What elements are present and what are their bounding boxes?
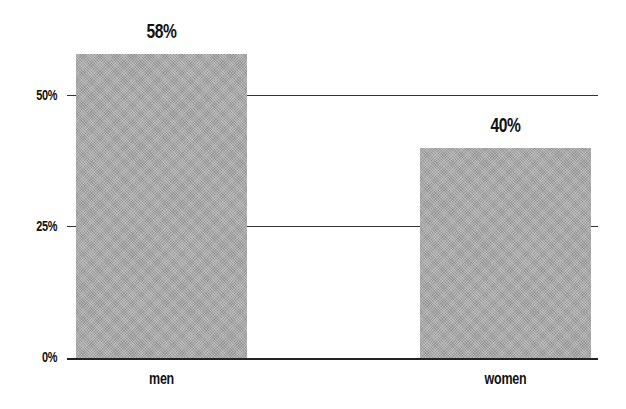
category-label-women: women — [439, 370, 572, 388]
value-label-women: 40% — [439, 114, 572, 137]
y-tick-label-0: 0% — [10, 349, 57, 365]
y-tick-label-25: 25% — [10, 218, 57, 234]
bar-chart: 50% 25% 0% 58% 40% men women — [0, 0, 626, 409]
y-tick-label-50: 50% — [10, 87, 57, 103]
category-label-men: men — [95, 370, 228, 388]
bar-men — [76, 54, 247, 358]
bar-women — [420, 148, 591, 358]
x-axis-baseline — [67, 358, 598, 360]
value-label-men: 58% — [95, 20, 228, 43]
